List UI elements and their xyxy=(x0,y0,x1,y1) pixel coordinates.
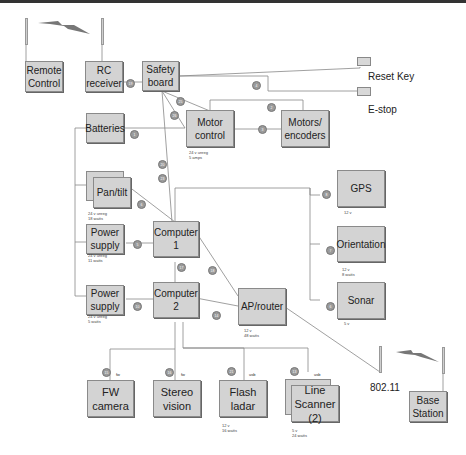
connection-badge: 3 xyxy=(258,125,267,134)
ap-router-note: 12 v 48 watts xyxy=(244,328,259,338)
power-supply-1-node[interactable]: Power supply xyxy=(86,224,124,254)
line-scanner-note: 5 v 24 watts xyxy=(292,428,307,438)
lightning-bolt-icon xyxy=(36,20,92,36)
stereo-vision-port: fw xyxy=(181,372,185,377)
flash-ladar-node[interactable]: Flash ladar xyxy=(219,380,267,417)
motor-control-note: 24 v unreg 5 amps xyxy=(189,150,208,160)
antenna-remote-icon xyxy=(25,18,28,45)
power-supply-1-note: 24 v unreg 11 watts xyxy=(88,253,107,263)
connection-badge: 15 xyxy=(102,368,111,377)
antenna-rc-icon xyxy=(101,18,104,45)
connection-badge: 6 xyxy=(137,200,146,209)
connection-badge: 17 xyxy=(177,263,186,272)
pan-tilt-node[interactable]: Pan/tilt xyxy=(93,177,131,208)
remote-control-node[interactable]: Remote Control xyxy=(25,61,63,92)
wifi-label: 802.11 xyxy=(370,382,400,393)
flash-ladar-note: 12 v 16 watts xyxy=(222,423,237,433)
power-supply-2-node[interactable]: Power supply xyxy=(86,285,124,315)
line-scanner-port: usb xyxy=(314,372,320,377)
connection-badge: 10 xyxy=(133,302,142,311)
connection-badge: 5 xyxy=(133,240,142,249)
connection-badge: 20 xyxy=(158,160,167,169)
connection-badge: 25 xyxy=(176,97,185,106)
sonar-node[interactable]: Sonar xyxy=(337,282,385,319)
line-scanner-node[interactable]: Line Scanner (2) xyxy=(291,385,339,422)
gps-note: 12 v xyxy=(344,210,352,215)
computer-1-node[interactable]: Computer 1 xyxy=(153,221,199,257)
connection-badge: 4 xyxy=(252,81,261,90)
connection-badge: 8 xyxy=(322,190,331,199)
antenna-wifi-icon xyxy=(379,346,382,373)
orientation-note: 12 v 8 watts xyxy=(342,267,355,277)
orientation-node[interactable]: Orientation xyxy=(337,226,385,262)
flash-ladar-port: usb xyxy=(249,372,255,377)
reset-key-switch[interactable] xyxy=(357,57,371,66)
sonar-note: 5 v xyxy=(344,321,349,326)
batteries-node[interactable]: Batteries xyxy=(86,113,124,143)
estop-label: E-stop xyxy=(368,104,397,115)
ap-router-node[interactable]: AP/router xyxy=(238,288,286,325)
antenna-base-icon xyxy=(442,347,445,374)
connection-badge: 21 xyxy=(227,367,236,376)
power-supply-2-note: 24 v unreg 5 watts xyxy=(88,314,107,324)
connection-badge: 14 xyxy=(212,311,221,320)
motor-control-node[interactable]: Motor control xyxy=(186,110,234,147)
base-station-node[interactable]: Base Station xyxy=(409,391,447,422)
connection-badge: 13 xyxy=(290,367,299,376)
lightning-bolt-icon xyxy=(395,349,441,363)
stereo-vision-node[interactable]: Stereo vision xyxy=(153,380,201,417)
fw-camera-node[interactable]: FW camera xyxy=(87,380,134,417)
estop-switch[interactable] xyxy=(357,87,371,96)
connection-badge: 6 xyxy=(326,302,335,311)
connection-badge: 16 xyxy=(165,368,174,377)
connection-badge: 7 xyxy=(326,246,335,255)
connection-badge: 26 xyxy=(170,111,179,120)
fw-camera-port: fw xyxy=(116,372,120,377)
connection-badge: 23 xyxy=(158,174,167,183)
connection-badge: 1 xyxy=(130,130,139,139)
computer-2-node[interactable]: Computer 2 xyxy=(153,282,199,318)
safety-board-node[interactable]: Safety board xyxy=(142,61,179,91)
rc-receiver-node[interactable]: RC receiver xyxy=(85,61,123,92)
connection-badge: 2 xyxy=(267,103,276,112)
reset-key-label: Reset Key xyxy=(368,71,414,82)
gps-node[interactable]: GPS xyxy=(337,170,385,207)
connection-badge: 19 xyxy=(126,79,135,88)
connection-badge: 18 xyxy=(208,266,217,275)
pan-tilt-note: 24 v unreg 18 watts xyxy=(88,211,107,221)
motors-encoders-node[interactable]: Motors/ encoders xyxy=(281,110,329,147)
